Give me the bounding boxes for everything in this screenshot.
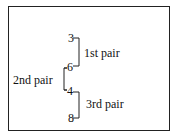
number-3: 3 xyxy=(68,32,74,44)
pair-brackets xyxy=(0,0,180,138)
label-1st-pair: 1st pair xyxy=(84,47,120,59)
number-6: 6 xyxy=(67,61,73,73)
bracket-1st-pair xyxy=(76,38,79,66)
label-2nd-pair: 2nd pair xyxy=(13,74,53,86)
number-4: 4 xyxy=(67,85,73,97)
number-8: 8 xyxy=(68,112,74,124)
bracket-3rd-pair xyxy=(76,92,79,118)
label-3rd-pair: 3rd pair xyxy=(86,98,124,110)
